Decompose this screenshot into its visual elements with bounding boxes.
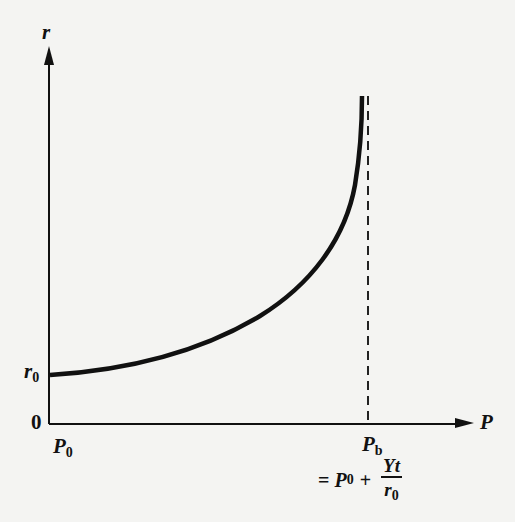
pb-fraction: Yt r0: [381, 456, 402, 503]
r0-tick-label: r0: [24, 361, 39, 385]
r-curve: [50, 96, 362, 375]
x-axis-arrowhead-icon: [455, 418, 474, 428]
pb-equation: = P0 + Yt r0: [318, 456, 402, 503]
pb-tick-label: Pb: [362, 434, 383, 458]
origin-label: 0: [31, 412, 42, 433]
y-axis-label: r: [42, 22, 50, 43]
plot-area: [0, 0, 515, 522]
x-axis-label: P: [480, 412, 493, 433]
p0-tick-label: P0: [53, 436, 73, 460]
y-axis-arrowhead-icon: [44, 46, 54, 65]
